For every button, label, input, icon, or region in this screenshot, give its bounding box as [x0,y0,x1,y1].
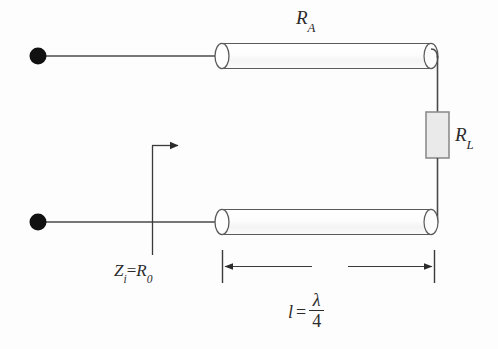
load-resistor [426,112,449,158]
circuit-diagram [0,0,498,349]
label-input-impedance: Zi=R0 [114,262,152,283]
label-line-resistance: RA [296,8,316,32]
label-rl-symbol: R [455,124,467,145]
label-length-equals: = [296,303,306,321]
label-ra-subscript: A [308,20,316,35]
input-terminal-top [30,48,47,65]
label-length-denominator: 4 [309,311,324,330]
label-length-numerator: λ [310,291,324,310]
label-r0-symbol: R [136,261,146,280]
figure-canvas: RA RL Zi=R0 l = λ 4 [0,0,498,349]
input-impedance-arrow [152,146,178,256]
cylinder-cap-left-bottom [215,209,229,234]
cylinder-cap-left-top [215,43,229,68]
label-zi-subscript: i [123,273,126,286]
label-ra-symbol: R [296,7,308,28]
cylinder-cap-right-bottom [424,209,438,234]
label-length-variable: l [288,303,293,321]
label-load-resistance: RL [455,125,474,149]
transmission-line-top [215,43,438,68]
label-length-equation: l = λ 4 [288,292,324,331]
top-branch [30,48,219,65]
length-dimension-line [223,250,435,283]
input-terminal-bottom [30,214,47,231]
label-length-fraction: λ 4 [309,291,324,330]
transmission-line-bottom [215,209,438,234]
label-rl-subscript: L [467,137,474,152]
cylinder-cap-right-top [424,43,438,68]
bottom-branch [30,214,219,231]
label-r0-subscript: 0 [147,273,153,286]
label-zi-equals: = [127,261,137,280]
